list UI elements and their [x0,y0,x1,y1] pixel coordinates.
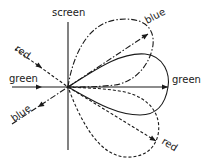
blue-lobe-arrow-icon [142,34,149,40]
red-incident-label: red [13,43,33,61]
green-incident-arrow-icon [36,85,42,90]
scattering-lobes-diagram: screen green red blue green blue red [0,0,202,164]
red-incident-arrow-icon [36,63,43,69]
screen-label: screen [52,7,85,18]
red-lobe-axis [68,87,156,141]
red-lobe-label: red [160,135,180,153]
blue-incident-arrow-icon [38,102,45,108]
green-incident-label: green [9,73,38,84]
red-lobe [68,87,159,157]
red-lobe-arrow-icon [150,136,157,142]
blue-lobe [68,19,153,87]
blue-lobe-label: blue [143,6,167,26]
blue-incident-label: blue [9,102,33,123]
origin-point [67,86,70,89]
blue-lobe-axis [68,34,148,87]
green-lobe-label: green [172,74,201,85]
green-lobe-arrow-icon [162,85,168,90]
